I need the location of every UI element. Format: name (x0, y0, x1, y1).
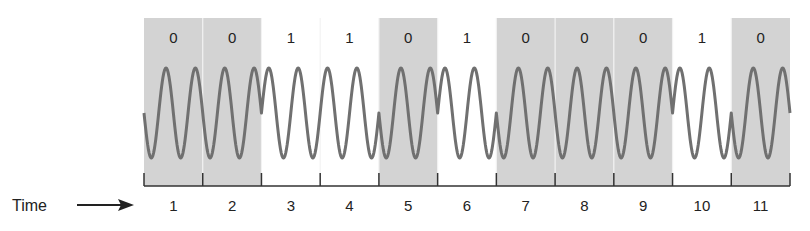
time-label: 8 (580, 197, 588, 214)
time-label: 5 (404, 197, 412, 214)
bit-label: 0 (639, 29, 647, 46)
bit-label: 0 (169, 29, 177, 46)
bit-label: 1 (463, 29, 471, 46)
bit-label: 0 (228, 29, 236, 46)
time-labels: 1234567891011 (169, 197, 768, 214)
time-label: 2 (228, 197, 236, 214)
psk-diagram: 00110100010 1234567891011 Time (0, 0, 810, 231)
bit-label: 1 (287, 29, 295, 46)
arrow-icon (77, 199, 134, 211)
time-label: 9 (639, 197, 647, 214)
time-label: 7 (522, 197, 530, 214)
bit-label: 1 (345, 29, 353, 46)
time-label: 3 (287, 197, 295, 214)
bit-label: 0 (522, 29, 530, 46)
time-axis-label: Time (12, 197, 47, 214)
bit-label: 0 (756, 29, 764, 46)
time-label: 6 (463, 197, 471, 214)
bit-label: 0 (404, 29, 412, 46)
time-label: 10 (694, 197, 711, 214)
bit-label: 1 (698, 29, 706, 46)
bit-label: 0 (580, 29, 588, 46)
time-label: 4 (345, 197, 353, 214)
time-label: 11 (753, 197, 769, 214)
time-label: 1 (169, 197, 177, 214)
